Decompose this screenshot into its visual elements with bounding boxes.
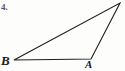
vertex-label-b: B [1, 54, 10, 67]
triangle-figure: 4. B A [0, 0, 125, 71]
vertex-label-a: A [85, 59, 92, 70]
triangle-drawing-canvas [0, 0, 125, 71]
triangle-outline [14, 3, 120, 60]
